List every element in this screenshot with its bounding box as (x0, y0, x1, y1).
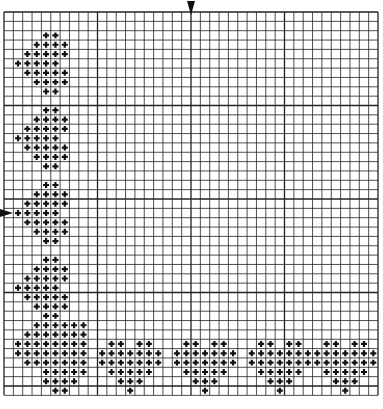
stitch-plus-icon (43, 42, 49, 48)
stitch-plus-icon (71, 332, 77, 338)
stitch-plus-icon (286, 350, 292, 356)
stitch-plus-icon (34, 79, 40, 85)
stitch-plus-icon (155, 360, 161, 366)
stitch-plus-icon (34, 70, 40, 76)
stitch-plus-icon (43, 60, 49, 66)
stitch-plus-icon (43, 201, 49, 207)
stitch-plus-icon (118, 378, 124, 384)
stitch-plus-icon (24, 294, 30, 300)
stitch-plus-icon (333, 350, 339, 356)
stitch-plus-icon (155, 350, 161, 356)
stitch-plus-icon (174, 350, 180, 356)
stitch-plus-icon (52, 350, 58, 356)
stitch-plus-icon (62, 275, 68, 281)
stitch-plus-icon (314, 350, 320, 356)
stitch-plus-icon (193, 341, 199, 347)
stitch-plus-icon (211, 369, 217, 375)
stitch-plus-icon (62, 145, 68, 151)
stitch-plus-icon (43, 332, 49, 338)
stitch-plus-icon (361, 360, 367, 366)
stitch-plus-icon (71, 369, 77, 375)
stitch-plus-icon (80, 341, 86, 347)
stitch-plus-icon (34, 341, 40, 347)
stitch-plus-icon (24, 332, 30, 338)
stitch-plus-icon (109, 350, 115, 356)
stitch-plus-icon (62, 229, 68, 235)
stitch-plus-icon (267, 378, 273, 384)
stitch-plus-icon (62, 350, 68, 356)
stitch-plus-icon (34, 145, 40, 151)
stitch-plus-icon (193, 350, 199, 356)
stitch-plus-icon (52, 266, 58, 272)
stitch-plus-icon (62, 266, 68, 272)
stitch-plus-icon (71, 341, 77, 347)
stitch-plus-icon (34, 285, 40, 291)
stitch-plus-icon (249, 360, 255, 366)
stitch-plus-icon (52, 229, 58, 235)
stitch-plus-icon (71, 350, 77, 356)
stitch-plus-icon (127, 388, 133, 394)
stitch-plus-icon (52, 163, 58, 169)
stitch-plus-icon (52, 60, 58, 66)
stitch-plus-icon (34, 322, 40, 328)
stitch-plus-icon (52, 201, 58, 207)
stitch-plus-icon (62, 388, 68, 394)
stitch-plus-icon (324, 350, 330, 356)
stitch-plus-icon (183, 360, 189, 366)
stitch-plus-icon (15, 60, 21, 66)
stitch-plus-icon (146, 350, 152, 356)
stitch-plus-icon (52, 313, 58, 319)
stitch-plus-icon (52, 322, 58, 328)
stitch-plus-icon (52, 388, 58, 394)
stitch-plus-icon (34, 51, 40, 57)
stitch-plus-icon (24, 126, 30, 132)
stitch-plus-icon (277, 350, 283, 356)
stitch-plus-icon (333, 341, 339, 347)
stitch-plus-icon (62, 304, 68, 310)
stitch-plus-icon (221, 350, 227, 356)
stitch-plus-icon (52, 378, 58, 384)
stitch-plus-icon (333, 378, 339, 384)
stitch-plus-icon (62, 126, 68, 132)
stitch-plus-icon (286, 341, 292, 347)
stitch-plus-icon (137, 350, 143, 356)
stitch-plus-icon (202, 369, 208, 375)
stitch-plus-icon (52, 210, 58, 216)
stitch-plus-icon (296, 341, 302, 347)
stitch-plus-icon (118, 350, 124, 356)
stitch-plus-icon (370, 350, 376, 356)
stitch-plus-icon (211, 341, 217, 347)
stitch-plus-icon (305, 360, 311, 366)
stitch-plus-icon (24, 51, 30, 57)
stitch-plus-icon (277, 369, 283, 375)
stitch-plus-icon (52, 32, 58, 38)
stitch-plus-icon (43, 275, 49, 281)
stitch-plus-icon (52, 191, 58, 197)
stitch-plus-icon (267, 360, 273, 366)
stitch-plus-icon (146, 360, 152, 366)
stitch-plus-icon (43, 285, 49, 291)
stitch-plus-icon (52, 238, 58, 244)
stitch-plus-icon (43, 163, 49, 169)
stitch-plus-icon (183, 341, 189, 347)
stitch-plus-icon (342, 378, 348, 384)
stitch-plus-icon (24, 360, 30, 366)
stitch-plus-icon (80, 350, 86, 356)
stitch-plus-icon (52, 275, 58, 281)
stitch-plus-icon (249, 350, 255, 356)
stitch-plus-icon (24, 145, 30, 151)
stitch-plus-icon (52, 51, 58, 57)
stitch-plus-icon (258, 360, 264, 366)
stitch-plus-icon (52, 182, 58, 188)
stitch-plus-icon (286, 378, 292, 384)
stitch-plus-icon (296, 360, 302, 366)
stitch-plus-icon (24, 135, 30, 141)
stitch-plus-icon (342, 350, 348, 356)
stitch-plus-icon (43, 341, 49, 347)
stitch-plus-icon (52, 219, 58, 225)
stitch-plus-icon (62, 322, 68, 328)
stitch-plus-icon (230, 360, 236, 366)
stitch-plus-icon (137, 369, 143, 375)
stitch-plus-icon (43, 154, 49, 160)
stitch-plus-icon (211, 360, 217, 366)
